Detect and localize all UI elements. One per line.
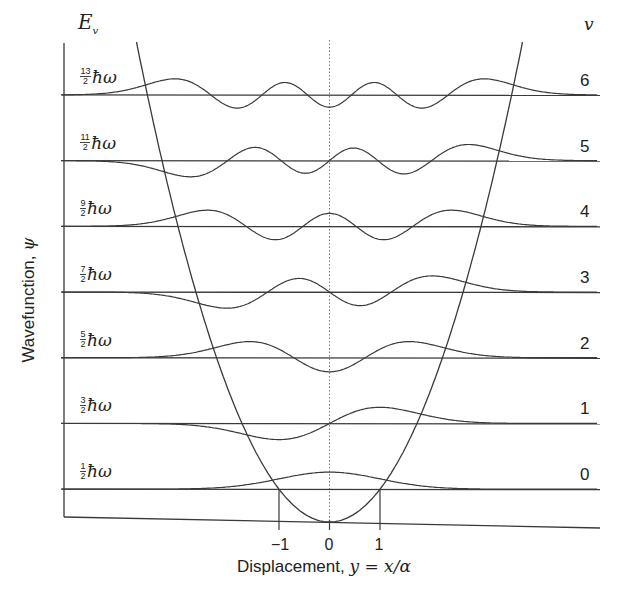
fraction-denominator: 2 [81,472,86,481]
x-tick-1: 1 [375,536,384,554]
fraction: 112 [80,133,90,152]
energy-label-v3: 72ħω [80,264,112,284]
fraction: 72 [80,265,86,284]
energy-level-line-v5 [61,161,600,162]
quantum-number-header: v [584,14,594,34]
x-tick-minus-1: −1 [271,536,289,554]
wavefunction-v2 [62,342,597,372]
hbar-omega-symbol: ħω [87,264,112,284]
energy-level-line-v4 [61,226,600,227]
fraction: 52 [80,330,86,349]
hbar-omega-symbol: ħω [87,198,112,218]
quantum-number-v5: 5 [580,137,589,157]
quantum-number-v6: 6 [580,71,589,91]
energy-level-line-v6 [61,95,600,96]
energy-label-v5: 112ħω [80,133,116,153]
fraction-denominator: 2 [81,406,86,415]
x-tick-0: 0 [325,536,334,554]
energy-label-v4: 92ħω [80,198,112,218]
fraction: 132 [80,67,91,86]
fraction-denominator: 2 [83,77,88,86]
axes [64,40,600,530]
quantum-number-v3: 3 [580,268,589,288]
fraction-denominator: 2 [81,275,86,284]
fraction: 12 [80,462,86,481]
energy-label-v0: 12ħω [80,461,112,481]
quantum-number-v1: 1 [580,399,589,419]
fraction-denominator: 2 [81,209,86,218]
wavefunction-v4 [62,210,597,240]
quantum-number-v2: 2 [580,334,589,354]
energy-axis-header: Ev [78,10,98,36]
fraction: 32 [80,396,86,415]
hbar-omega-symbol: ħω [92,67,117,87]
energy-label-v2: 52ħω [80,330,112,350]
energy-label-v6: 132ħω [80,67,117,87]
hbar-omega-symbol: ħω [87,395,112,415]
wavefunctions [62,79,597,489]
x-axis-label: Displacement, y = x/α [237,556,411,577]
y-axis-label: Wavefunction, ψ [18,237,39,362]
energy-label-v1: 32ħω [80,395,112,415]
fraction-denominator: 2 [83,143,88,152]
hbar-omega-symbol: ħω [87,330,112,350]
fraction-denominator: 2 [81,340,86,349]
quantum-number-v0: 0 [580,465,589,485]
hbar-omega-symbol: ħω [91,133,116,153]
quantum-number-v4: 4 [580,202,589,222]
hbar-omega-symbol: ħω [87,461,112,481]
plot-area [0,0,627,606]
fraction: 92 [80,199,86,218]
